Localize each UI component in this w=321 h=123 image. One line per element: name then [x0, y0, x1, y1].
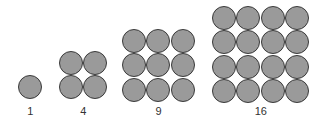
label-1: 1	[10, 105, 50, 117]
circle	[236, 55, 260, 79]
circle	[261, 55, 285, 79]
circle	[122, 53, 146, 77]
circle-grid-1x1	[18, 75, 42, 99]
circle	[122, 29, 146, 53]
circle	[261, 6, 285, 30]
circle	[18, 75, 42, 99]
circle	[212, 30, 236, 54]
circle-grid-3x3	[122, 29, 195, 102]
circle	[236, 6, 260, 30]
label-16: 16	[241, 105, 281, 117]
label-9: 9	[139, 105, 179, 117]
circle	[285, 79, 309, 103]
circle-grid-2x2	[59, 51, 108, 100]
circle	[146, 78, 170, 102]
circle	[122, 78, 146, 102]
circle	[261, 30, 285, 54]
circle	[146, 29, 170, 53]
circle	[212, 55, 236, 79]
circle	[236, 30, 260, 54]
circle	[261, 79, 285, 103]
circle	[83, 51, 107, 75]
circle	[59, 51, 83, 75]
circle	[285, 30, 309, 54]
circle	[146, 53, 170, 77]
circle-grid-4x4	[212, 6, 310, 104]
circle	[212, 79, 236, 103]
label-4: 4	[63, 105, 103, 117]
circle	[171, 53, 195, 77]
circle	[59, 75, 83, 99]
circle	[171, 78, 195, 102]
circle	[171, 29, 195, 53]
circle	[285, 55, 309, 79]
circle	[236, 79, 260, 103]
circle	[285, 6, 309, 30]
circle	[83, 75, 107, 99]
circle	[212, 6, 236, 30]
